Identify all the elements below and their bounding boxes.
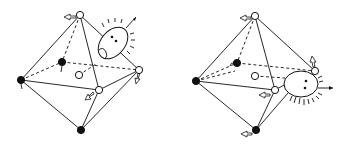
vertex-open — [135, 66, 142, 73]
vertex-filled — [58, 58, 65, 65]
vertex-filled — [233, 59, 240, 66]
octahedron-right — [192, 12, 333, 137]
vertex-filled — [77, 126, 84, 133]
octahedra-diagram — [0, 0, 347, 145]
vertex-open — [75, 71, 82, 78]
vertex-open — [251, 72, 258, 79]
vertex-open — [95, 86, 102, 93]
vertex-open — [76, 11, 83, 18]
vertex-filled — [17, 76, 24, 83]
vertex-filled — [192, 77, 199, 84]
face-icon — [284, 71, 333, 105]
vertex-filled — [252, 126, 259, 133]
vertex-open — [271, 86, 278, 93]
octahedron-left — [17, 11, 142, 133]
face-icon — [92, 17, 136, 65]
vertex-open — [311, 67, 318, 74]
vertex-open — [251, 12, 258, 19]
